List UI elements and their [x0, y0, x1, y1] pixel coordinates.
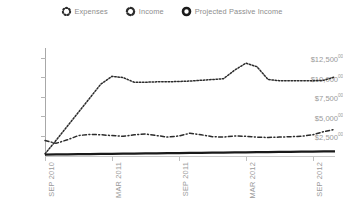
series-line-projected-passive-income	[45, 151, 335, 154]
x-axis-tick	[313, 157, 314, 161]
x-axis-tick-label: MAR 2011	[115, 162, 123, 198]
x-axis-tick-label: SEP 2010	[48, 162, 56, 197]
series-line-expenses	[45, 63, 335, 154]
x-axis-tick	[246, 157, 247, 161]
dotted-ring-icon	[61, 6, 72, 17]
legend-item-projected-passive-income[interactable]: Projected Passive Income	[181, 6, 283, 17]
series-canvas	[45, 48, 335, 155]
x-axis-tick	[112, 157, 113, 161]
passive-income-line-chart: Expenses Income Projected Passive Income…	[0, 0, 343, 214]
chart-legend: Expenses Income Projected Passive Income	[0, 3, 343, 19]
solid-ring-icon	[181, 6, 192, 17]
legend-label-expenses: Expenses	[75, 7, 108, 16]
series-line-income	[45, 129, 335, 143]
x-axis-tick	[179, 157, 180, 161]
legend-label-income: Income	[139, 7, 164, 16]
legend-item-expenses[interactable]: Expenses	[61, 6, 108, 17]
x-axis-tick-label: SEP 2011	[182, 162, 190, 196]
legend-label-projected-passive-income: Projected Passive Income	[195, 7, 283, 16]
legend-item-income[interactable]: Income	[125, 6, 164, 17]
x-axis-line	[45, 156, 335, 157]
plot-area	[45, 48, 335, 155]
x-axis-tick	[45, 157, 46, 161]
x-axis-tick-label: MAR 2012	[249, 162, 257, 199]
x-axis-tick-label: SEP 2012	[316, 162, 324, 197]
dash-dot-ring-icon	[125, 6, 136, 17]
